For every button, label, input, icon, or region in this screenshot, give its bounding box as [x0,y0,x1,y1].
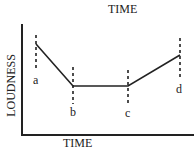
loudness-time-chart: TIME TIME LOUDNESS a b c d [0,0,196,150]
y-axis-label: LOUDNESS [4,51,19,121]
point-label-d: d [176,82,182,97]
chart-title: TIME [108,2,137,17]
point-label-c: c [125,106,130,121]
plot-area [0,0,196,150]
point-label-b: b [70,105,76,120]
x-axis-label: TIME [63,136,92,150]
loudness-line [36,44,180,86]
point-label-a: a [33,73,38,88]
